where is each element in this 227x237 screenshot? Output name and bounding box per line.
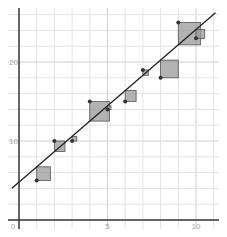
data-point: [194, 36, 198, 40]
x-tick-label: 10: [192, 222, 201, 231]
regression-line-group: [12, 13, 216, 188]
regression-line: [12, 13, 216, 188]
residual-square: [125, 91, 136, 102]
data-point: [141, 68, 145, 72]
data-point: [159, 76, 163, 80]
data-points: [35, 21, 198, 183]
data-point: [176, 21, 180, 25]
x-tick-label: 0: [11, 222, 16, 231]
residual-square: [161, 60, 179, 78]
tick-labels: 05101020: [9, 58, 201, 231]
data-point: [106, 107, 110, 111]
data-point: [35, 179, 39, 183]
data-point: [88, 100, 92, 104]
data-point: [123, 100, 127, 104]
data-point: [70, 139, 74, 143]
scatter-chart: 05101020: [0, 0, 227, 237]
y-tick-label: 10: [9, 137, 18, 146]
y-tick-label: 20: [9, 58, 18, 67]
x-tick-label: 5: [105, 222, 110, 231]
residual-square: [37, 167, 51, 181]
data-point: [52, 139, 56, 143]
